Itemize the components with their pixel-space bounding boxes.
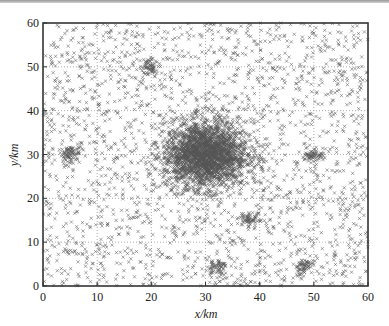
- x-tick-label: 50: [308, 290, 320, 304]
- y-tick-label: 20: [27, 191, 39, 205]
- x-tick-label: 20: [145, 290, 157, 304]
- y-tick-label: 0: [33, 279, 39, 293]
- y-tick-labels: 0102030405060: [27, 16, 39, 293]
- x-tick-labels: 0102030405060: [40, 290, 374, 304]
- scatter-chart: 0102030405060 0102030405060 x/km y/km: [0, 0, 389, 326]
- x-tick-label: 40: [254, 290, 266, 304]
- x-tick-label: 30: [200, 290, 212, 304]
- x-markers: [42, 22, 370, 288]
- y-tick-label: 60: [27, 16, 39, 30]
- y-axis-label: y/km: [7, 143, 21, 167]
- y-tick-label: 50: [27, 60, 39, 74]
- x-tick-label: 0: [40, 290, 46, 304]
- y-tick-label: 30: [27, 148, 39, 162]
- x-axis-label: x/km: [194, 307, 218, 321]
- x-tick-label: 10: [91, 290, 103, 304]
- y-tick-label: 10: [27, 235, 39, 249]
- y-tick-label: 40: [27, 104, 39, 118]
- data-points: [42, 22, 370, 288]
- x-tick-label: 60: [362, 290, 374, 304]
